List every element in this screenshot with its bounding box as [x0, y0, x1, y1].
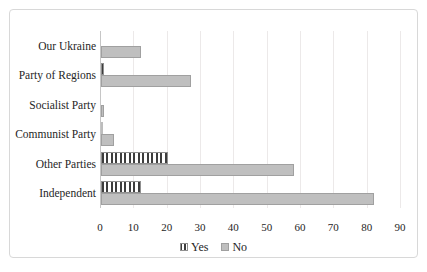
bar-yes-communist-party: [101, 122, 103, 134]
bar-yes-party-of-regions: [101, 63, 104, 75]
x-tick-label-30: 30: [185, 221, 215, 233]
bar-no-our-ukraine: [101, 46, 141, 58]
legend-swatch-no-icon: [221, 243, 229, 251]
legend-label-yes: Yes: [191, 240, 208, 255]
x-tick-label-90: 90: [385, 221, 415, 233]
category-label-our-ukraine: Our Ukraine: [10, 31, 96, 61]
gridline: [300, 31, 301, 208]
plot-area: [100, 31, 400, 208]
bar-no-independent: [101, 193, 374, 205]
gridline: [367, 31, 368, 208]
bar-no-other-parties: [101, 164, 294, 176]
category-label-socialist-party: Socialist Party: [10, 90, 96, 120]
chart-frame: Our UkraineParty of RegionsSocialist Par…: [9, 9, 418, 258]
bar-no-party-of-regions: [101, 75, 191, 87]
legend: YesNo: [10, 239, 417, 255]
legend-label-no: No: [232, 240, 247, 255]
x-tick-label-60: 60: [285, 221, 315, 233]
x-tick-label-0: 0: [85, 221, 115, 233]
category-label-communist-party: Communist Party: [10, 120, 96, 150]
x-tick-label-80: 80: [352, 221, 382, 233]
bar-yes-other-parties: [101, 152, 168, 164]
gridline: [400, 31, 401, 208]
category-label-independent: Independent: [10, 179, 96, 209]
x-tick-label-70: 70: [318, 221, 348, 233]
bar-yes-independent: [101, 181, 141, 193]
gridline: [267, 31, 268, 208]
legend-item-no: No: [221, 240, 247, 255]
x-tick-label-10: 10: [118, 221, 148, 233]
legend-swatch-yes-icon: [180, 243, 188, 251]
gridline: [233, 31, 234, 208]
bar-no-socialist-party: [101, 105, 104, 117]
gridline: [167, 31, 168, 208]
bar-no-communist-party: [101, 134, 114, 146]
x-tick-label-40: 40: [218, 221, 248, 233]
gridline: [200, 31, 201, 208]
x-tick-label-50: 50: [252, 221, 282, 233]
x-tick-label-20: 20: [152, 221, 182, 233]
gridline: [333, 31, 334, 208]
category-label-party-of-regions: Party of Regions: [10, 61, 96, 91]
category-label-other-parties: Other Parties: [10, 149, 96, 179]
legend-item-yes: Yes: [180, 240, 208, 255]
